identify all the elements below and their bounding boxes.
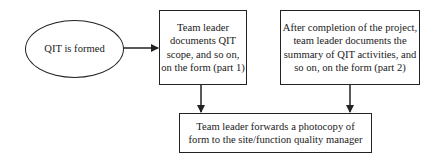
node-part2: After completion of the project, team le…	[280, 10, 420, 85]
node-label: Team leader documents QIT scope, and so …	[161, 21, 245, 75]
node-label: After completion of the project, team le…	[283, 21, 417, 75]
node-qit-formed: QIT is formed	[25, 20, 124, 78]
node-forward: Team leader forwards a photocopy of form…	[179, 113, 372, 153]
node-label: Team leader forwards a photocopy of form…	[189, 120, 363, 147]
node-label: QIT is formed	[44, 42, 104, 56]
node-part1: Team leader documents QIT scope, and so …	[159, 10, 247, 85]
